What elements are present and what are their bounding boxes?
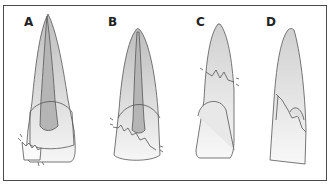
tooth-b bbox=[110, 29, 163, 161]
label-b: B bbox=[108, 15, 117, 29]
tooth-d bbox=[270, 29, 306, 165]
tooth-diagram: A B C D bbox=[0, 0, 332, 186]
label-a: A bbox=[24, 15, 34, 29]
label-d: D bbox=[266, 15, 276, 29]
tooth-c bbox=[196, 24, 239, 158]
label-c: C bbox=[196, 15, 205, 29]
tooth-a bbox=[18, 14, 75, 166]
